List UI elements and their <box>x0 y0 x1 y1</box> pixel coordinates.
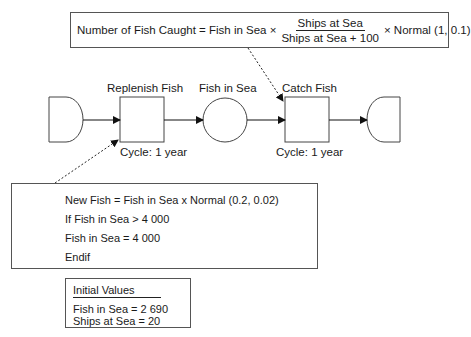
fish-in-sea-circle <box>203 98 247 142</box>
fish-in-sea-label: Fish in Sea <box>199 82 257 94</box>
formula-rhs: × Normal (1, 0.1) <box>384 24 471 36</box>
formula-lhs: Number of Fish Caught = Fish in Sea × <box>77 24 276 36</box>
logic-link-dashed <box>55 140 118 183</box>
initial-value-line: Ships at Sea = 20 <box>73 315 190 327</box>
logic-line: Fish in Sea = 4 000 <box>65 232 317 251</box>
catch-cycle-label: Cycle: 1 year <box>276 146 343 158</box>
catch-fish-label: Catch Fish <box>282 82 337 94</box>
formula-numerator: Ships at Sea <box>296 17 365 31</box>
replenish-fish-label: Replenish Fish <box>107 82 183 94</box>
initial-value-line: Fish in Sea = 2 690 <box>73 303 190 315</box>
logic-line: If Fish in Sea > 4 000 <box>65 213 317 232</box>
formula-denominator: Ships at Sea + 100 <box>281 31 379 44</box>
logic-line: New Fish = Fish in Sea x Normal (0.2, 0.… <box>65 194 317 213</box>
formula-fraction: Ships at Sea Ships at Sea + 100 <box>281 17 379 44</box>
catch-fish-box <box>285 97 329 142</box>
source-shape <box>49 97 83 142</box>
replenish-fish-box <box>120 97 164 142</box>
logic-line: Endif <box>65 251 317 270</box>
sink-shape <box>367 97 400 142</box>
initial-values-title: Initial Values <box>73 284 161 298</box>
replenish-cycle-label: Cycle: 1 year <box>120 146 187 158</box>
catch-formula-box: Number of Fish Caught = Fish in Sea × Sh… <box>70 12 449 48</box>
replenish-logic-box: New Fish = Fish in Sea x Normal (0.2, 0.… <box>11 183 318 269</box>
initial-values-box: Initial Values Fish in Sea = 2 690 Ships… <box>65 278 191 328</box>
